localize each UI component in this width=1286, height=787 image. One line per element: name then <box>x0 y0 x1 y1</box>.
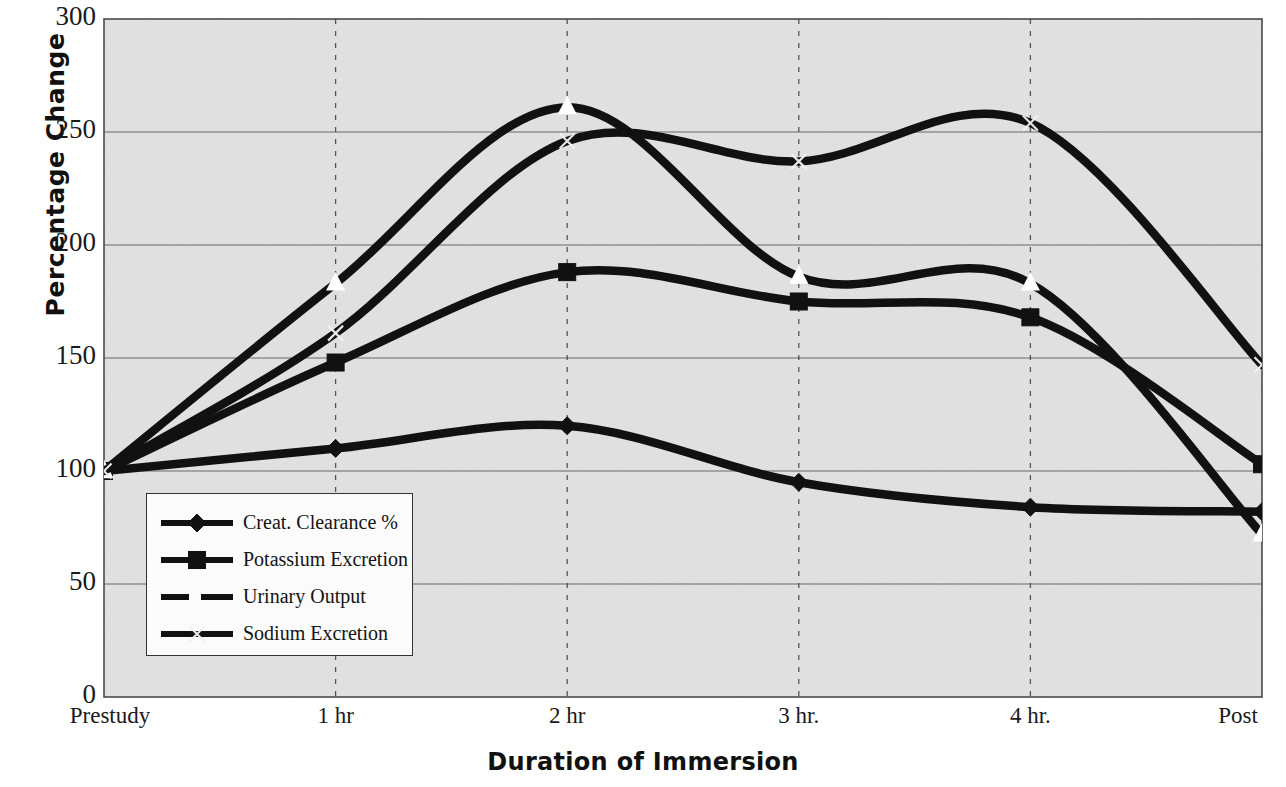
square-marker <box>1254 456 1271 473</box>
legend-item: Creat. Clearance % <box>147 504 412 541</box>
square-marker <box>189 551 206 568</box>
chart-legend: Creat. Clearance %Potassium ExcretionUri… <box>146 493 413 656</box>
square-marker <box>159 550 235 570</box>
legend-item: Sodium Excretion <box>147 615 412 652</box>
legend-item: Urinary Output <box>147 578 412 615</box>
chart-figure: Percentage Change 050100150200250300 <box>0 0 1286 787</box>
legend-key <box>159 587 235 607</box>
legend-item-label: Potassium Excretion <box>243 548 408 571</box>
legend-item-label: Urinary Output <box>243 585 366 608</box>
legend-key <box>159 513 235 533</box>
square-marker <box>790 293 807 310</box>
x-marker <box>159 624 235 644</box>
x-axis-tick-label: Post <box>1218 703 1258 729</box>
x-axis-tick-label: 4 hr. <box>1010 703 1051 729</box>
x-axis-tick-label: Prestudy <box>70 703 151 729</box>
plot-area <box>0 0 1286 787</box>
diamond-marker <box>159 513 235 533</box>
legend-key <box>159 550 235 570</box>
legend-item-label: Sodium Excretion <box>243 622 388 645</box>
legend-item: Potassium Excretion <box>147 541 412 578</box>
diamond-marker <box>188 514 206 532</box>
legend-item-label: Creat. Clearance % <box>243 511 398 534</box>
x-axis-title: Duration of Immersion <box>0 748 1286 776</box>
square-marker <box>327 354 344 371</box>
x-axis-tick-label: 3 hr. <box>778 703 819 729</box>
x-axis-tick-label: 1 hr <box>317 703 353 729</box>
x-axis-tick-label: 2 hr <box>549 703 585 729</box>
legend-key <box>159 624 235 644</box>
dashed-line-marker <box>159 587 235 607</box>
square-marker <box>1022 309 1039 326</box>
square-marker <box>559 264 576 281</box>
